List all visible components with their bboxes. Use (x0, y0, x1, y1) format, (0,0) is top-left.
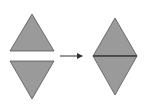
diamond-bottom-half (93, 56, 137, 95)
combined-diamond (93, 18, 137, 95)
diagram-canvas (0, 0, 144, 106)
down-triangle (10, 61, 54, 99)
diagram-svg (0, 0, 144, 106)
left-triangles (10, 14, 54, 99)
diamond-top-half (93, 18, 137, 56)
up-triangle (10, 14, 54, 51)
